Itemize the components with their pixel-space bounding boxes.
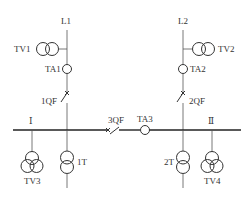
tv2-voltage-transformer-icon bbox=[183, 43, 215, 56]
ta3-current-transformer-icon bbox=[141, 126, 150, 135]
2qf-breaker-icon bbox=[177, 91, 185, 102]
1t-label: 1T bbox=[77, 157, 88, 167]
1qf-label: 1QF bbox=[41, 96, 57, 106]
1t-power-transformer-icon bbox=[61, 151, 74, 174]
ta3-label: TA3 bbox=[137, 114, 153, 124]
2qf-label: 2QF bbox=[189, 96, 205, 106]
tv1-label: TV1 bbox=[14, 44, 31, 54]
tv4-label: TV4 bbox=[204, 176, 221, 186]
tv3-label: TV3 bbox=[24, 176, 41, 186]
ta2-label: TA2 bbox=[190, 64, 206, 74]
3qf-label: 3QF bbox=[108, 115, 124, 125]
line-label-l1: L1 bbox=[61, 16, 71, 26]
wiring-diagram: L1 TV1 TA1 1QF L2 TV2 TA2 2QF Ⅰ Ⅱ bbox=[0, 0, 251, 197]
2t-label: 2T bbox=[164, 157, 175, 167]
tv3-three-winding-transformer-icon bbox=[21, 152, 43, 173]
line-label-l2: L2 bbox=[178, 16, 188, 26]
bus-section-ii-label: Ⅱ bbox=[208, 116, 214, 126]
1qf-breaker-icon bbox=[61, 91, 69, 102]
2t-power-transformer-icon bbox=[177, 151, 190, 174]
tv1-voltage-transformer-icon bbox=[37, 43, 68, 56]
tv4-three-winding-transformer-icon bbox=[201, 152, 223, 173]
ta2-current-transformer-icon bbox=[179, 65, 188, 74]
bus-section-i-label: Ⅰ bbox=[29, 116, 33, 126]
3qf-bus-coupler-breaker-icon bbox=[106, 127, 119, 134]
ta1-current-transformer-icon bbox=[63, 65, 72, 74]
ta1-label: TA1 bbox=[45, 64, 61, 74]
tv2-label: TV2 bbox=[218, 44, 235, 54]
